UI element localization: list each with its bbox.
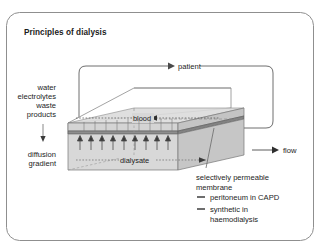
blood-front-face <box>68 123 178 131</box>
patient-label: patient <box>178 62 202 71</box>
legend-item-2-label-line-2: haemodialysis <box>210 215 258 224</box>
diffusion-gradient-line-1: diffusion <box>28 150 56 159</box>
legend-caption-line-2: membrane <box>196 183 232 192</box>
left-annotation-line-4: products <box>27 110 56 119</box>
left-annotation-line-2: electrolytes <box>18 92 57 101</box>
left-annotation-line-3: waste <box>35 101 56 110</box>
legend-item-1-label: peritoneum in CAPD <box>210 193 280 202</box>
legend-caption-line-1: selectively permeable <box>196 173 269 182</box>
diffusion-arrows-group <box>77 136 170 151</box>
membrane-front <box>68 131 178 134</box>
legend-item-2-label-line-1: synthetic in <box>210 205 248 214</box>
diffusion-gradient-line-2: gradient <box>29 159 57 168</box>
figure-root: Principles of dialysis patient <box>0 0 326 252</box>
dialysis-diagram: Principles of dialysis patient <box>0 0 326 252</box>
blood-label: blood <box>133 114 151 123</box>
page-title: Principles of dialysis <box>24 28 107 37</box>
dialysate-label: dialysate <box>120 156 149 165</box>
flow-label: flow <box>283 146 297 155</box>
left-annotation-line-1: water <box>36 83 56 92</box>
